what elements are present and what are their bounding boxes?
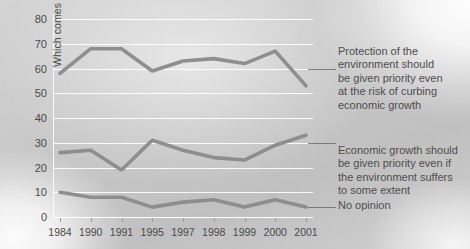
y-tick-label-60: 60 [35, 63, 47, 74]
y-tick-label-20: 20 [35, 162, 47, 173]
leader-line-no-opinion [308, 207, 336, 208]
x-tick-label-1995: 1995 [141, 226, 164, 238]
leader-line-economy [308, 143, 336, 144]
y-tick-label-10: 10 [35, 187, 47, 198]
y-tick-label-70: 70 [35, 38, 47, 49]
series-line-0 [60, 49, 306, 86]
y-tick-label-80: 80 [35, 14, 47, 25]
x-tick-mark-1990 [91, 218, 92, 222]
x-tick-mark-2001 [306, 218, 307, 222]
x-tick-label-2001: 2001 [294, 226, 317, 238]
x-tick-mark-1998 [214, 218, 215, 222]
x-tick-label-1999: 1999 [233, 226, 256, 238]
annotation-economic-growth-priority: Economic growth should be given priority… [338, 144, 470, 198]
leader-line-environment [308, 69, 336, 70]
x-tick-label-2000: 2000 [264, 226, 287, 238]
y-tick-label-30: 30 [35, 137, 47, 148]
x-tick-mark-1997 [183, 218, 184, 222]
data-lines-group [53, 19, 313, 217]
series-line-1 [60, 135, 306, 170]
y-tick-label-0: 0 [41, 212, 47, 223]
plot-area: 01020304050607080 1984199019911995199719… [53, 19, 313, 217]
annotation-environment-priority: Protection of the environment should be … [338, 45, 468, 112]
x-tick-mark-1995 [152, 218, 153, 222]
y-axis-title: Which comes closer to your view? [51, 0, 63, 67]
x-tick-mark-1984 [60, 218, 61, 222]
x-tick-mark-1991 [122, 218, 123, 222]
series-line-2 [60, 192, 306, 207]
x-tick-label-1991: 1991 [110, 226, 133, 238]
chart-figure: 01020304050607080 1984199019911995199719… [0, 0, 470, 249]
x-tick-mark-1999 [245, 218, 246, 222]
x-tick-label-1984: 1984 [48, 226, 71, 238]
x-tick-label-1997: 1997 [171, 226, 194, 238]
y-tick-label-40: 40 [35, 113, 47, 124]
x-tick-label-1998: 1998 [202, 226, 225, 238]
x-tick-mark-2000 [275, 218, 276, 222]
annotation-no-opinion: No opinion [338, 199, 468, 212]
y-tick-label-50: 50 [35, 88, 47, 99]
x-tick-label-1990: 1990 [79, 226, 102, 238]
